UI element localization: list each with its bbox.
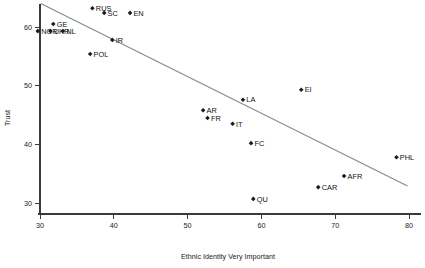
point-label-text: PHL bbox=[400, 153, 414, 162]
regression-trend-line bbox=[41, 4, 408, 186]
point-label-text: CAR bbox=[322, 183, 338, 192]
y-tick-label: 40 bbox=[24, 140, 32, 149]
point-marker-diamond bbox=[51, 22, 56, 27]
point-label-text: IR bbox=[116, 36, 123, 45]
y-tick-label: 30 bbox=[24, 199, 32, 208]
x-tick-label: 30 bbox=[36, 221, 44, 230]
point-marker-diamond bbox=[299, 87, 304, 92]
data-point: POL bbox=[88, 50, 108, 59]
axis-ticks-group: 30405060708030405060 bbox=[24, 23, 413, 230]
point-label-text: LA bbox=[246, 95, 255, 104]
point-marker-diamond bbox=[249, 141, 254, 146]
point-marker-diamond bbox=[241, 97, 246, 102]
data-point: QU bbox=[251, 195, 268, 204]
point-label-text: POL bbox=[94, 50, 109, 59]
point-marker-diamond bbox=[201, 108, 206, 113]
y-tick-label: 50 bbox=[24, 81, 32, 90]
point-label-text: EN bbox=[133, 9, 143, 18]
data-point: FC bbox=[249, 139, 265, 148]
data-points-group: RUSSCENGENORUKRNLIRPOLEILAARFRITFCPHLAFR… bbox=[35, 4, 414, 204]
point-label-text: EI bbox=[305, 85, 312, 94]
y-axis-title: Trust bbox=[3, 110, 12, 126]
axes-group bbox=[38, 4, 421, 215]
point-marker-diamond bbox=[394, 155, 399, 160]
point-label-text: FC bbox=[254, 139, 265, 148]
data-point: IT bbox=[230, 120, 243, 129]
point-label-text: IT bbox=[236, 120, 243, 129]
data-point: LA bbox=[241, 95, 256, 104]
point-marker-diamond bbox=[342, 174, 347, 179]
point-marker-diamond bbox=[90, 6, 95, 11]
x-tick-label: 70 bbox=[331, 221, 339, 230]
point-marker-diamond bbox=[88, 52, 93, 57]
point-marker-diamond bbox=[205, 116, 210, 121]
data-point: EN bbox=[128, 9, 144, 18]
data-point: CAR bbox=[316, 183, 337, 192]
data-point: PHL bbox=[394, 153, 414, 162]
x-tick-label: 60 bbox=[257, 221, 265, 230]
point-marker-diamond bbox=[230, 122, 235, 127]
data-point: EI bbox=[299, 85, 312, 94]
x-tick-label: 40 bbox=[110, 221, 118, 230]
point-label-text: AFR bbox=[347, 172, 362, 181]
point-label-text: FR bbox=[211, 114, 221, 123]
x-axis-title: Ethnic Identity Very Important bbox=[181, 252, 275, 261]
point-label-text: QU bbox=[257, 195, 268, 204]
point-marker-diamond bbox=[128, 11, 133, 16]
scatter-chart: 30405060708030405060 RUSSCENGENORUKRNLIR… bbox=[0, 0, 425, 268]
data-point: IR bbox=[110, 36, 123, 45]
x-tick-label: 80 bbox=[405, 221, 413, 230]
point-label-text: SC bbox=[108, 9, 119, 18]
point-marker-diamond bbox=[35, 29, 40, 34]
data-point: AFR bbox=[342, 172, 362, 181]
y-tick-label: 60 bbox=[24, 23, 32, 32]
point-marker-diamond bbox=[251, 197, 256, 202]
trend-line-group bbox=[41, 4, 408, 186]
point-marker-diamond bbox=[316, 185, 321, 190]
plot-canvas: 30405060708030405060 RUSSCENGENORUKRNLIR… bbox=[0, 0, 425, 268]
point-label-text: NL bbox=[66, 27, 75, 36]
x-tick-label: 50 bbox=[184, 221, 192, 230]
